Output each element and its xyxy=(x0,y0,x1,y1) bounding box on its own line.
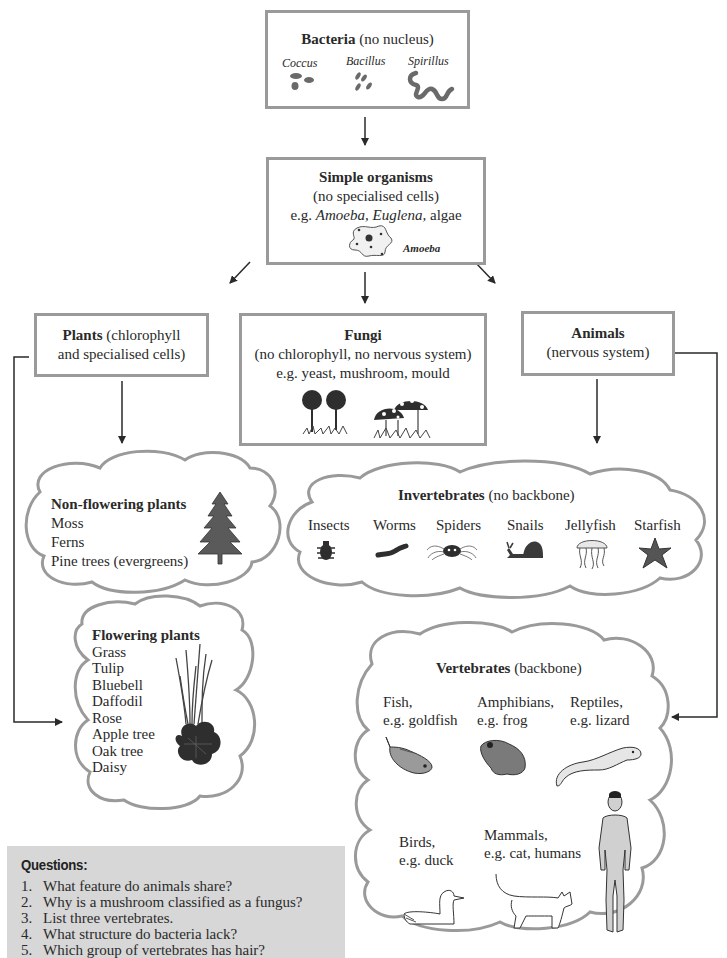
question-item: 5.Which group of vertebrates has hair? xyxy=(21,942,303,958)
non-flowering-item: Ferns xyxy=(51,533,188,552)
simple-organisms-box: Simple organisms (no specialised cells) … xyxy=(266,157,486,265)
fungi-heading: Fungi xyxy=(242,326,484,345)
coccus-icon xyxy=(288,71,318,93)
invertebrate-worms-label: Worms xyxy=(373,516,416,535)
questions-panel: Questions: 1.What feature do animals sha… xyxy=(7,846,345,958)
amoeba-icon xyxy=(345,222,395,260)
animals-heading: Animals xyxy=(524,324,672,343)
questions-list: 1.What feature do animals share? 2.Why i… xyxy=(21,878,303,958)
invertebrate-spiders-label: Spiders xyxy=(436,516,481,535)
vertebrates-heading: Vertebrates (backbone) xyxy=(436,659,582,678)
non-flowering-heading: Non-flowering plants xyxy=(51,495,188,514)
worm-icon xyxy=(375,543,409,559)
questions-heading: Questions: xyxy=(21,856,87,873)
non-flowering-item: Moss xyxy=(51,514,188,533)
mushroom-icon xyxy=(372,398,434,440)
frog-icon xyxy=(479,738,529,778)
bacillus-icon xyxy=(350,71,380,95)
question-item: 3.List three vertebrates. xyxy=(21,910,303,926)
question-item: 2.Why is a mushroom classified as a fung… xyxy=(21,894,303,910)
mould-icon xyxy=(301,388,351,440)
invertebrate-jellyfish-label: Jellyfish xyxy=(565,516,616,535)
spirillus-icon xyxy=(406,69,456,103)
simple-organisms-desc: (no specialised cells) xyxy=(269,187,483,206)
invertebrate-starfish-label: Starfish xyxy=(634,516,681,535)
amoeba-label: Amoeba xyxy=(403,239,440,258)
invertebrate-insects-label: Insects xyxy=(308,516,350,535)
question-item: 1.What feature do animals share? xyxy=(21,878,303,894)
invertebrates-heading: Invertebrates (no backbone) xyxy=(398,486,575,505)
animals-box: Animals (nervous system) xyxy=(521,311,675,376)
bacteria-box: Bacteria (no nucleus) Coccus Bacillus Sp… xyxy=(265,10,470,109)
bacillus-label: Bacillus xyxy=(346,52,385,71)
cat-icon xyxy=(492,872,578,930)
fungi-desc: (no chlorophyll, no nervous system) xyxy=(242,345,484,364)
plants-box: Plants (chlorophyll and specialised cell… xyxy=(34,313,209,377)
spider-icon xyxy=(426,542,478,560)
bacteria-heading: Bacteria (no nucleus) xyxy=(268,30,467,49)
plants-desc: and specialised cells) xyxy=(37,345,206,364)
vertebrate-birds-label: Birds, e.g. duck xyxy=(399,833,454,869)
human-icon xyxy=(593,790,637,938)
jellyfish-icon xyxy=(574,536,610,570)
vertebrate-mammals-label: Mammals, e.g. cat, humans xyxy=(484,826,581,862)
grass-flower-icon xyxy=(172,640,232,770)
fungi-box: Fungi (no chlorophyll, no nervous system… xyxy=(239,313,487,446)
fish-icon xyxy=(380,735,436,777)
snail-icon xyxy=(505,538,545,560)
pine-tree-icon xyxy=(198,490,242,565)
animals-desc: (nervous system) xyxy=(524,343,672,362)
non-flowering-text: Non-flowering plants Moss Ferns Pine tre… xyxy=(51,495,188,571)
non-flowering-item: Pine trees (evergreens) xyxy=(51,552,188,571)
vertebrate-amphibians-label: Amphibians, e.g. frog xyxy=(477,693,554,729)
simple-organisms-heading: Simple organisms xyxy=(269,168,483,187)
vertebrate-reptiles-label: Reptiles, e.g. lizard xyxy=(570,693,630,729)
invertebrate-snails-label: Snails xyxy=(507,516,544,535)
vertebrate-fish-label: Fish, e.g. goldfish xyxy=(383,693,458,729)
question-item: 4.What structure do bacteria lack? xyxy=(21,926,303,942)
fungi-examples: e.g. yeast, mushroom, mould xyxy=(242,364,484,383)
plants-heading: Plants (chlorophyll xyxy=(37,326,206,345)
insect-icon xyxy=(316,540,336,562)
starfish-icon xyxy=(637,536,673,570)
lizard-icon xyxy=(553,740,645,790)
duck-icon xyxy=(400,888,466,928)
